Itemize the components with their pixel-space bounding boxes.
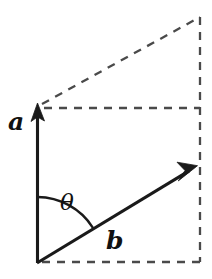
vector-b-label: b (106, 226, 123, 255)
vector-diagram: a θ b (0, 0, 212, 279)
angle-theta-label: θ (60, 189, 74, 215)
vector-a-label: a (8, 107, 24, 136)
vector-figure-container: a θ b (0, 0, 212, 279)
